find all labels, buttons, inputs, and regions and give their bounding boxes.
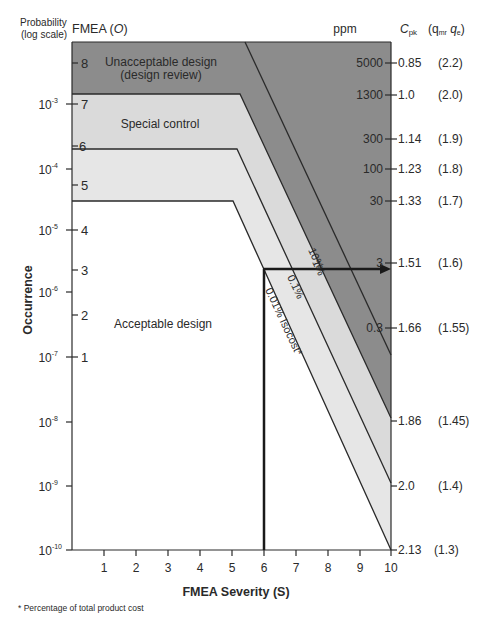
svg-text:4: 4 bbox=[197, 561, 204, 575]
svg-text:8: 8 bbox=[81, 56, 88, 71]
cpk-title: Cpk bbox=[400, 22, 418, 37]
y-axis-title: Occurrence bbox=[21, 265, 35, 335]
svg-text:1300: 1300 bbox=[356, 88, 383, 102]
svg-text:1.0: 1.0 bbox=[398, 88, 415, 102]
svg-text:3: 3 bbox=[81, 263, 88, 278]
svg-text:10-4: 10-4 bbox=[38, 162, 58, 177]
svg-text:1.23: 1.23 bbox=[398, 162, 422, 176]
svg-text:(1.9): (1.9) bbox=[438, 132, 463, 146]
svg-text:10-9: 10-9 bbox=[38, 479, 58, 494]
svg-text:7: 7 bbox=[293, 561, 300, 575]
svg-text:2: 2 bbox=[81, 308, 88, 323]
acceptable-design-label: Acceptable design bbox=[114, 317, 212, 331]
svg-text:1.51: 1.51 bbox=[398, 256, 422, 270]
svg-text:1.14: 1.14 bbox=[398, 132, 422, 146]
svg-text:1: 1 bbox=[101, 561, 108, 575]
svg-text:10-5: 10-5 bbox=[38, 223, 58, 238]
svg-text:1.86: 1.86 bbox=[398, 414, 422, 428]
svg-text:8: 8 bbox=[325, 561, 332, 575]
svg-text:9: 9 bbox=[357, 561, 364, 575]
ppm-title: ppm bbox=[333, 22, 356, 36]
svg-text:1: 1 bbox=[81, 350, 88, 365]
svg-text:300: 300 bbox=[363, 132, 383, 146]
svg-text:0.85: 0.85 bbox=[398, 56, 422, 70]
svg-text:1.66: 1.66 bbox=[398, 321, 422, 335]
probability-ticks bbox=[66, 104, 72, 550]
svg-text:(1.6): (1.6) bbox=[438, 256, 463, 270]
svg-text:5: 5 bbox=[229, 561, 236, 575]
svg-text:0.3: 0.3 bbox=[366, 321, 383, 335]
svg-text:4: 4 bbox=[81, 223, 88, 238]
x-ticks bbox=[104, 550, 391, 556]
svg-text:5000: 5000 bbox=[356, 56, 383, 70]
svg-text:3: 3 bbox=[376, 256, 383, 270]
svg-text:5: 5 bbox=[81, 178, 88, 193]
svg-text:30: 30 bbox=[370, 194, 384, 208]
svg-text:2.13: 2.13 bbox=[398, 543, 422, 557]
footnote: * Percentage of total product cost bbox=[18, 603, 144, 613]
svg-text:(1.4): (1.4) bbox=[438, 479, 463, 493]
fmea-isocost-chart: Probability (log scale) FMEA (O) ppm Cpk… bbox=[0, 0, 483, 620]
svg-text:2: 2 bbox=[133, 561, 140, 575]
probability-axis-title: Probability bbox=[20, 17, 67, 28]
svg-text:10-8: 10-8 bbox=[38, 415, 58, 430]
x-axis-title: FMEA Severity (S) bbox=[182, 585, 289, 599]
svg-text:(1.7): (1.7) bbox=[438, 194, 463, 208]
svg-text:2.0: 2.0 bbox=[398, 479, 415, 493]
fmea-o-axis-title: FMEA (O) bbox=[72, 22, 128, 36]
svg-text:10-6: 10-6 bbox=[38, 285, 58, 300]
svg-text:(1.45): (1.45) bbox=[438, 414, 469, 428]
svg-text:10-3: 10-3 bbox=[38, 97, 58, 112]
svg-text:6: 6 bbox=[261, 561, 268, 575]
svg-text:100: 100 bbox=[363, 162, 383, 176]
svg-text:(1.8): (1.8) bbox=[438, 162, 463, 176]
svg-text:3: 3 bbox=[165, 561, 172, 575]
svg-text:10-10: 10-10 bbox=[39, 543, 63, 558]
svg-text:6: 6 bbox=[79, 139, 86, 154]
q-title: (qmr qe) bbox=[428, 22, 465, 36]
svg-text:(1.3): (1.3) bbox=[434, 543, 459, 557]
probability-axis-subtitle: (log scale) bbox=[21, 29, 67, 40]
svg-text:(2.2): (2.2) bbox=[438, 56, 463, 70]
design-review-label: (design review) bbox=[120, 68, 201, 82]
q-labels: (2.2) (2.0) (1.9) (1.8) (1.7) (1.6) (1.5… bbox=[434, 56, 469, 557]
svg-text:(2.0): (2.0) bbox=[438, 88, 463, 102]
svg-text:7: 7 bbox=[81, 97, 88, 112]
probability-tick-labels: 10-3 10-4 10-5 10-6 10-7 10-8 10-9 10-10 bbox=[38, 97, 62, 558]
unacceptable-design-label: Unacceptable design bbox=[105, 55, 217, 69]
svg-text:10: 10 bbox=[384, 561, 398, 575]
svg-text:(1.55): (1.55) bbox=[438, 321, 469, 335]
svg-text:10-7: 10-7 bbox=[38, 350, 58, 365]
x-tick-labels: 1 2 3 4 5 6 7 8 9 10 bbox=[101, 561, 398, 575]
special-control-label: Special control bbox=[121, 117, 200, 131]
svg-text:1.33: 1.33 bbox=[398, 194, 422, 208]
cpk-labels: 0.85 1.0 1.14 1.23 1.33 1.51 1.66 1.86 2… bbox=[398, 56, 422, 557]
